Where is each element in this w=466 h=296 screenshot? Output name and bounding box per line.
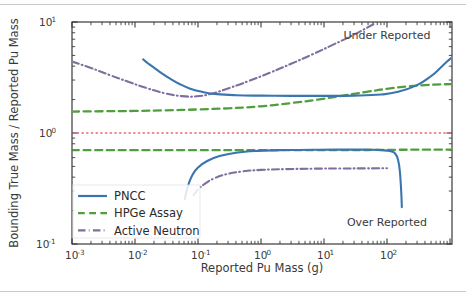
annotation-under-reported: Under Reported [343, 29, 430, 42]
x-tick-mantissa: 10 [65, 249, 78, 261]
x-tick-exponent: 1 [330, 248, 335, 257]
x-tick-label: 101 [317, 248, 334, 262]
x-tick-mantissa: 10 [254, 249, 267, 261]
y-tick-exponent: 1 [52, 15, 57, 24]
x-tick-exponent: -2 [141, 248, 148, 257]
figure-canvas: 10-310-210-110010110210110010-1 Under Re… [0, 0, 466, 296]
x-tick-mantissa: 10 [128, 249, 141, 261]
y-tick-mantissa: 10 [39, 127, 52, 139]
legend-label: Active Neutron [114, 224, 200, 238]
x-tick-exponent: 2 [393, 248, 398, 257]
y-tick-label: 100 [39, 126, 57, 140]
y-tick-exponent: 0 [52, 126, 57, 135]
x-tick-label: 10-2 [128, 248, 148, 262]
x-tick-mantissa: 10 [317, 249, 330, 261]
x-tick-label: 102 [380, 248, 397, 262]
chart-svg: 10-310-210-110010110210110010-1 Under Re… [0, 0, 466, 296]
y-axis-title: Bounding True Mass / Reported Pu Mass [7, 18, 21, 247]
x-axis-title: Reported Pu Mass (g) [201, 261, 324, 275]
legend[interactable]: PNCCHPGe AssayActive Neutron [73, 185, 200, 238]
x-tick-exponent: -3 [78, 248, 85, 257]
y-tick-mantissa: 10 [36, 238, 49, 250]
y-tick-label: 10-1 [36, 237, 56, 251]
x-tick-exponent: 0 [267, 248, 272, 257]
y-tick-label: 101 [39, 15, 56, 29]
x-tick-mantissa: 10 [380, 249, 393, 261]
x-tick-label: 10-1 [191, 248, 211, 262]
legend-label: PNCC [114, 189, 146, 203]
y-tick-exponent: -1 [49, 237, 56, 246]
x-tick-label: 100 [254, 248, 272, 262]
x-tick-exponent: -1 [204, 248, 211, 257]
x-tick-mantissa: 10 [191, 249, 204, 261]
annotation-over-reported: Over Reported [347, 216, 427, 229]
y-tick-mantissa: 10 [39, 16, 52, 28]
legend-label: HPGe Assay [114, 206, 183, 220]
x-tick-label: 10-3 [65, 248, 85, 262]
